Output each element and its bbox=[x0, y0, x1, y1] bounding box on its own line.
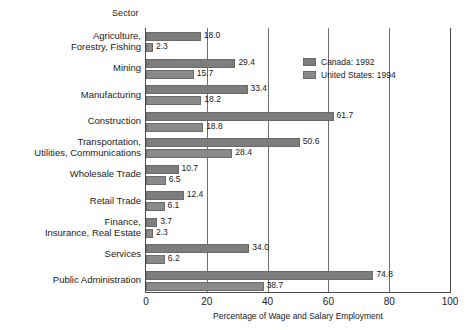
chart-category-row: 50.628.4 bbox=[146, 134, 450, 161]
bar-value-label: 6.1 bbox=[168, 200, 180, 211]
category-label: Finance, Insurance, Real Estate bbox=[1, 216, 141, 238]
legend: Canada: 1992United States: 1994 bbox=[303, 56, 396, 82]
bar[interactable] bbox=[146, 70, 194, 79]
bar-value-label: 6.5 bbox=[169, 174, 181, 185]
chart-category-row: 10.76.5 bbox=[146, 161, 450, 188]
category-label: Wholesale Trade bbox=[1, 168, 141, 179]
bar-value-label: 28.4 bbox=[235, 147, 252, 158]
category-label: Agriculture, Forestry, Fishing bbox=[1, 30, 141, 52]
bar-value-label: 2.3 bbox=[156, 41, 168, 52]
bar[interactable] bbox=[146, 218, 157, 227]
bar[interactable] bbox=[146, 191, 184, 200]
bar[interactable] bbox=[146, 255, 165, 264]
x-axis-tick-label: 80 bbox=[384, 296, 395, 307]
bar[interactable] bbox=[146, 202, 165, 211]
category-label: Public Administration bbox=[1, 274, 141, 285]
bar[interactable] bbox=[146, 59, 235, 68]
bar[interactable] bbox=[146, 165, 179, 174]
bar-value-label: 18.2 bbox=[204, 94, 221, 105]
chart-category-row: 29.415.7 bbox=[146, 55, 450, 82]
legend-swatch-icon bbox=[303, 71, 316, 79]
bar[interactable] bbox=[146, 32, 201, 41]
chart-category-row: 33.418.2 bbox=[146, 81, 450, 108]
category-label: Services bbox=[1, 248, 141, 259]
legend-swatch-icon bbox=[303, 58, 316, 66]
bar[interactable] bbox=[146, 176, 166, 185]
legend-label: Canada: 1992 bbox=[321, 57, 374, 67]
bar[interactable] bbox=[146, 149, 232, 158]
category-label: Construction bbox=[1, 115, 141, 126]
legend-item[interactable]: United States: 1994 bbox=[303, 69, 396, 81]
bar[interactable] bbox=[146, 112, 334, 121]
bar-value-label: 18.8 bbox=[206, 121, 223, 132]
y-axis-title: Sector bbox=[112, 8, 139, 18]
bar[interactable] bbox=[146, 43, 153, 52]
bar-value-label: 15.7 bbox=[197, 68, 214, 79]
bar[interactable] bbox=[146, 138, 300, 147]
bar-value-label: 29.4 bbox=[238, 57, 255, 68]
bar-value-label: 18.0 bbox=[204, 30, 221, 41]
bar[interactable] bbox=[146, 271, 373, 280]
plot-area: 18.02.329.415.733.418.261.718.850.628.41… bbox=[145, 28, 451, 293]
chart-category-row: 61.718.8 bbox=[146, 108, 450, 135]
chart-category-row: 3.72.3 bbox=[146, 214, 450, 241]
bar[interactable] bbox=[146, 244, 249, 253]
chart-category-row: 74.838.7 bbox=[146, 267, 450, 294]
category-label: Transportation, Utilities, Communication… bbox=[1, 136, 141, 158]
bar-value-label: 34.0 bbox=[252, 242, 269, 253]
legend-label: United States: 1994 bbox=[321, 70, 396, 80]
bar-value-label: 38.7 bbox=[267, 280, 284, 291]
bar-value-label: 74.8 bbox=[376, 269, 393, 280]
x-axis-tick-label: 20 bbox=[201, 296, 212, 307]
category-label: Manufacturing bbox=[1, 89, 141, 100]
category-label: Retail Trade bbox=[1, 195, 141, 206]
chart-container: Sector Agriculture, Forestry, FishingMin… bbox=[0, 0, 473, 330]
chart-category-row: 34.06.2 bbox=[146, 240, 450, 267]
bar-value-label: 33.4 bbox=[251, 83, 268, 94]
bar-value-label: 12.4 bbox=[187, 189, 204, 200]
x-axis-tick-label: 100 bbox=[442, 296, 459, 307]
bar[interactable] bbox=[146, 96, 201, 105]
chart-category-row: 18.02.3 bbox=[146, 28, 450, 55]
bar[interactable] bbox=[146, 85, 248, 94]
bar[interactable] bbox=[146, 229, 153, 238]
bar-value-label: 6.2 bbox=[168, 253, 180, 264]
bar[interactable] bbox=[146, 282, 264, 291]
category-label-column: Agriculture, Forestry, FishingMiningManu… bbox=[0, 28, 141, 293]
x-axis-tick-label: 40 bbox=[262, 296, 273, 307]
legend-item[interactable]: Canada: 1992 bbox=[303, 56, 396, 68]
bar[interactable] bbox=[146, 123, 203, 132]
bar-value-label: 2.3 bbox=[156, 227, 168, 238]
x-axis-tick-label: 60 bbox=[323, 296, 334, 307]
x-axis-tick-label: 0 bbox=[143, 296, 149, 307]
chart-category-row: 12.46.1 bbox=[146, 187, 450, 214]
bar-value-label: 61.7 bbox=[337, 110, 354, 121]
category-label: Mining bbox=[1, 62, 141, 73]
x-axis-title: Percentage of Wage and Salary Employment bbox=[145, 311, 451, 321]
bar-value-label: 3.7 bbox=[160, 216, 172, 227]
bar-value-label: 10.7 bbox=[182, 163, 199, 174]
bar-value-label: 50.6 bbox=[303, 136, 320, 147]
